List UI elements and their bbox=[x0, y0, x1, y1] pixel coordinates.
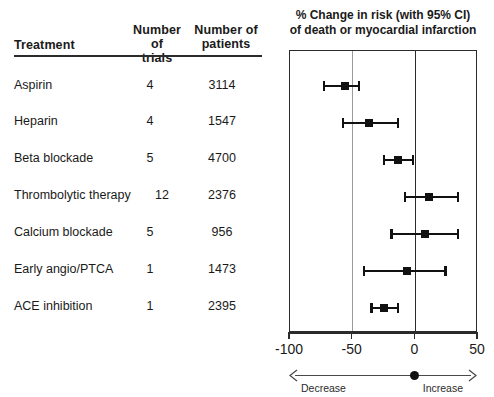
column-header-trials-line1: Number of bbox=[126, 23, 188, 51]
estimate-marker bbox=[365, 119, 373, 127]
x-axis-line bbox=[289, 332, 477, 334]
ci-lower-cap bbox=[323, 81, 325, 91]
direction-indicator: Decrease Increase bbox=[289, 369, 477, 383]
cell-treatment: Early angio/PTCA bbox=[14, 262, 113, 276]
x-axis-tick bbox=[288, 332, 290, 339]
table-row: Aspirin 4 3114 bbox=[14, 78, 262, 96]
table-row: Thrombolytic therapy 12 2376 bbox=[14, 188, 262, 206]
ci-lower-cap bbox=[404, 192, 406, 202]
column-header-treatment: Treatment bbox=[14, 38, 75, 52]
ci-row bbox=[290, 79, 476, 93]
cell-patients: 3114 bbox=[190, 78, 254, 92]
ci-upper-cap bbox=[412, 155, 414, 165]
x-axis-tick-label: -50 bbox=[342, 341, 362, 357]
cell-treatment: ACE inhibition bbox=[14, 299, 93, 313]
table-header-divider bbox=[14, 55, 262, 57]
ci-lower-cap bbox=[390, 229, 392, 239]
plot-title-line1: % Change in risk (with 95% CI) bbox=[272, 8, 494, 23]
x-axis-tick-label: 0 bbox=[410, 341, 418, 357]
estimate-marker bbox=[425, 193, 433, 201]
left-arrow-icon bbox=[289, 369, 298, 382]
forest-plot: % Change in risk (with 95% CI) of death … bbox=[272, 0, 494, 397]
ci-lower-cap bbox=[363, 266, 365, 276]
ci-lower-cap bbox=[370, 303, 372, 313]
plot-area bbox=[289, 50, 477, 332]
cell-trials: 5 bbox=[126, 151, 174, 165]
column-header-patients: Number of patients bbox=[190, 23, 262, 51]
ci-upper-cap bbox=[397, 303, 399, 313]
ci-lower-cap bbox=[383, 155, 385, 165]
cell-patients: 956 bbox=[190, 225, 254, 239]
plot-title-line2: of death or myocardial infarction bbox=[272, 23, 494, 38]
table-row: Calcium blockade 5 956 bbox=[14, 225, 262, 243]
direction-axis-line bbox=[295, 375, 471, 376]
ci-row bbox=[290, 264, 476, 278]
cell-trials: 5 bbox=[126, 225, 174, 239]
right-arrow-icon bbox=[468, 369, 477, 382]
direction-label-decrease: Decrease bbox=[301, 382, 346, 394]
ci-row bbox=[290, 153, 476, 167]
cell-trials: 1 bbox=[126, 299, 174, 313]
ci-upper-cap bbox=[397, 118, 399, 128]
estimate-marker bbox=[394, 156, 402, 164]
table-row: Early angio/PTCA 1 1473 bbox=[14, 262, 262, 280]
plot-title: % Change in risk (with 95% CI) of death … bbox=[272, 8, 494, 38]
table-row: Heparin 4 1547 bbox=[14, 114, 262, 132]
null-effect-dot bbox=[410, 371, 419, 380]
estimate-marker bbox=[341, 82, 349, 90]
cell-trials: 4 bbox=[126, 114, 174, 128]
x-axis-tick-label: 50 bbox=[469, 341, 485, 357]
column-header-trials: Number of trials bbox=[126, 23, 188, 65]
table-row: ACE inhibition 1 2395 bbox=[14, 299, 262, 317]
ci-row bbox=[290, 116, 476, 130]
ci-row bbox=[290, 190, 476, 204]
column-header-patients-line1: Number of bbox=[190, 23, 262, 37]
ci-upper-cap bbox=[457, 192, 459, 202]
cell-treatment: Calcium blockade bbox=[14, 225, 113, 239]
ci-upper-cap bbox=[358, 81, 360, 91]
estimate-marker bbox=[380, 304, 388, 312]
x-axis-tick bbox=[476, 332, 478, 339]
ci-upper-cap bbox=[444, 266, 446, 276]
ci-upper-cap bbox=[457, 229, 459, 239]
cell-trials: 12 bbox=[138, 188, 186, 202]
column-header-trials-line2: trials bbox=[126, 51, 188, 65]
cell-treatment: Beta blockade bbox=[14, 151, 93, 165]
x-axis-tick bbox=[351, 332, 353, 339]
cell-patients: 1473 bbox=[190, 262, 254, 276]
cell-patients: 4700 bbox=[190, 151, 254, 165]
cell-treatment: Aspirin bbox=[14, 78, 52, 92]
estimate-marker bbox=[403, 267, 411, 275]
ci-row bbox=[290, 301, 476, 315]
table-header-row: Treatment Number of trials Number of pat… bbox=[14, 18, 262, 52]
x-axis-tick-label: -100 bbox=[275, 341, 303, 357]
cell-trials: 1 bbox=[126, 262, 174, 276]
estimate-marker bbox=[421, 230, 429, 238]
cell-trials: 4 bbox=[126, 78, 174, 92]
cell-patients: 2376 bbox=[190, 188, 254, 202]
direction-label-increase: Increase bbox=[423, 382, 463, 394]
treatment-table: Treatment Number of trials Number of pat… bbox=[0, 0, 272, 397]
column-header-patients-line2: patients bbox=[190, 37, 262, 51]
table-row: Beta blockade 5 4700 bbox=[14, 151, 262, 169]
x-axis-tick bbox=[414, 332, 416, 339]
ci-lower-cap bbox=[342, 118, 344, 128]
cell-patients: 1547 bbox=[190, 114, 254, 128]
ci-row bbox=[290, 227, 476, 241]
cell-treatment: Heparin bbox=[14, 114, 58, 128]
cell-patients: 2395 bbox=[190, 299, 254, 313]
cell-treatment: Thrombolytic therapy bbox=[14, 188, 131, 202]
